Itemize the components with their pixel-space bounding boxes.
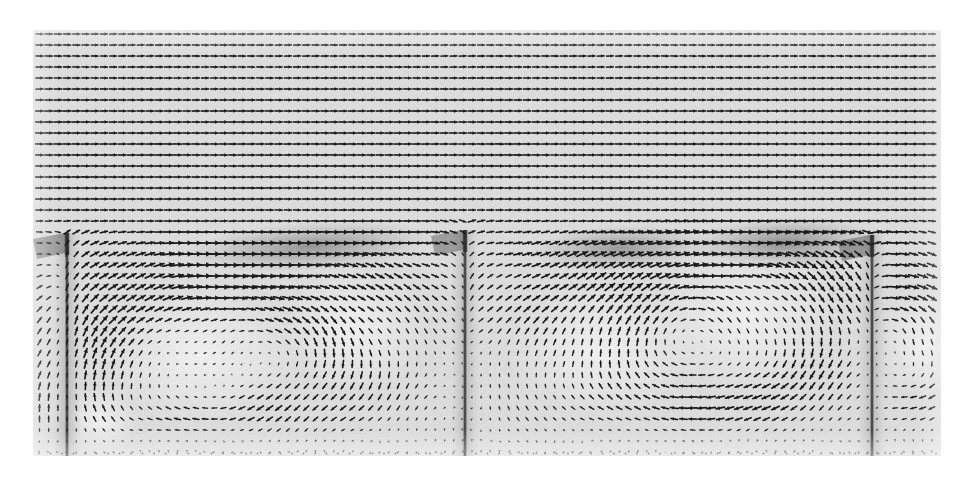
- vector-field-figure: Velocity vector field of turbulent flow …: [0, 0, 970, 477]
- velocity-vector-field-canvas: [33, 30, 941, 456]
